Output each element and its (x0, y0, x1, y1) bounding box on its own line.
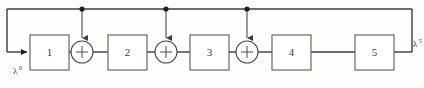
block-1[interactable]: 1 (30, 35, 69, 70)
block-3-label: 3 (207, 46, 213, 58)
block-5[interactable]: 5 (355, 35, 394, 70)
block-2[interactable]: 2 (108, 35, 147, 70)
diagram-canvas: 1 2 3 4 5 (0, 0, 424, 88)
input-label: λ (13, 66, 18, 76)
junction-dot-1 (79, 6, 84, 11)
output-label-superscript: 5 (419, 38, 422, 44)
block-4-label: 4 (289, 46, 295, 58)
block-diagram-figure: 1 2 3 4 5 (0, 0, 424, 88)
output-label-group: λ 5 (413, 38, 422, 49)
block-4[interactable]: 4 (272, 35, 311, 70)
input-label-group: λ 0 (13, 65, 22, 76)
junction-dot-3 (244, 6, 249, 11)
junction-dot-2 (163, 6, 168, 11)
block-3[interactable]: 3 (190, 35, 229, 70)
block-1-label: 1 (47, 46, 53, 58)
adder-3[interactable] (236, 41, 258, 63)
input-label-superscript: 0 (19, 65, 22, 71)
bus-drop-lines (82, 9, 247, 38)
block-5-label: 5 (372, 46, 378, 58)
block-2-label: 2 (125, 46, 131, 58)
output-label: λ (413, 39, 418, 49)
adder-1[interactable] (71, 41, 93, 63)
adder-2[interactable] (155, 41, 177, 63)
